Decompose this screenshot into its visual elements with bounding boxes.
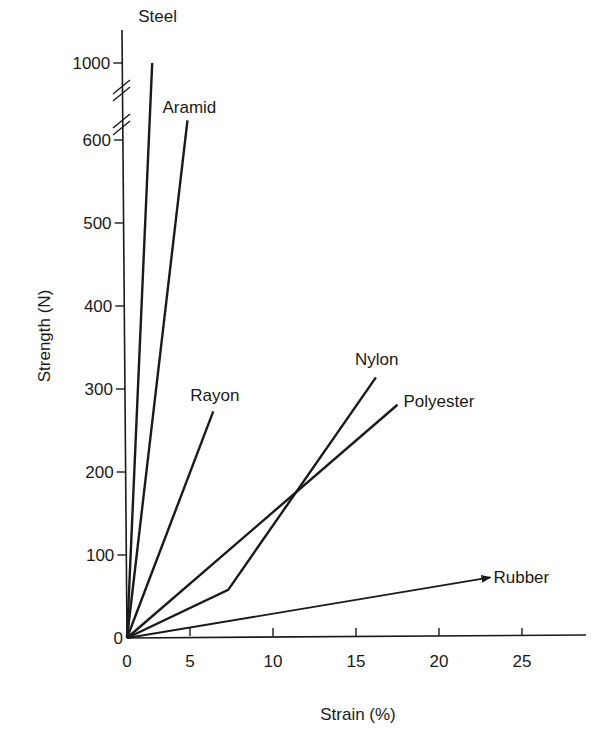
y-axis-title: Strength (N): [35, 290, 54, 383]
y-tick-label: 200: [85, 463, 113, 482]
x-tick-label: 15: [347, 652, 366, 671]
x-axis-title: Strain (%): [320, 705, 396, 724]
x-tick-label: 5: [185, 652, 194, 671]
break-mark: [113, 87, 130, 101]
series-line-nylon: [127, 377, 376, 638]
x-tick-label: 25: [513, 652, 532, 671]
y-axis: [122, 30, 127, 638]
series-label-steel: Steel: [138, 7, 177, 26]
series-line-polyester: [127, 405, 398, 638]
y-ticks: 01002003004005006001000: [72, 54, 126, 648]
series-label-rubber: Rubber: [493, 568, 549, 587]
x-tick-label: 0: [122, 652, 131, 671]
y-tick-label: 600: [83, 131, 111, 150]
y-tick-label: 1000: [72, 54, 110, 73]
break-mark: [113, 114, 130, 128]
x-tick-label: 20: [430, 652, 449, 671]
series-label-aramid: Aramid: [162, 98, 216, 117]
break-mark: [113, 80, 130, 94]
series-label-rayon: Rayon: [190, 386, 239, 405]
series-labels: SteelAramidRayonNylonPolyesterRubber: [138, 7, 549, 587]
y-tick-label: 300: [85, 380, 113, 399]
y-tick-label: 0: [114, 629, 123, 648]
series-label-nylon: Nylon: [355, 350, 398, 369]
y-tick-label: 500: [83, 214, 111, 233]
y-tick-label: 100: [86, 546, 114, 565]
y-axis-break: [113, 80, 130, 135]
series-label-polyester: Polyester: [404, 392, 475, 411]
series-line-rubber: [127, 577, 490, 638]
series-lines: [127, 63, 490, 638]
break-mark: [113, 121, 130, 135]
x-tick-label: 10: [264, 652, 283, 671]
x-ticks: 0510152025: [122, 628, 531, 671]
y-tick-label: 400: [84, 297, 112, 316]
series-line-steel: [127, 63, 152, 638]
strength-strain-chart: 0510152025 01002003004005006001000 Steel…: [0, 0, 612, 734]
